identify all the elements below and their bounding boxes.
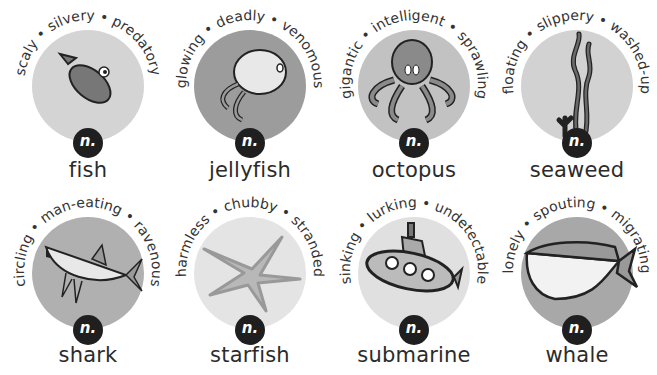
card-octopus: gigantic • intelligent • sprawling n. oc…	[332, 0, 496, 188]
card-shark: circling • man-eating • ravenous n. shar…	[6, 187, 170, 375]
noun-label: shark	[6, 343, 170, 367]
noun-badge: n.	[73, 315, 103, 345]
card-fish: scaly • silvery • predatory n. fish	[6, 0, 170, 188]
noun-badge: n.	[235, 315, 265, 345]
noun-badge: n.	[399, 128, 429, 158]
noun-label: starfish	[168, 343, 332, 367]
card-whale: lonely • spouting • migrating n. whale	[495, 187, 657, 375]
noun-badge: n.	[73, 128, 103, 158]
card-submarine: sinking • lurking • undetectable n. subm…	[332, 187, 496, 375]
card-starfish: harmless • chubby • stranded n. starfish	[168, 187, 332, 375]
noun-label: seaweed	[495, 158, 657, 182]
noun-label: fish	[6, 158, 170, 182]
card-jellyfish: glowing • deadly • venomous n. jellyfish	[168, 0, 332, 188]
noun-label: octopus	[332, 158, 496, 182]
noun-label: submarine	[332, 343, 496, 367]
noun-label: jellyfish	[168, 158, 332, 182]
noun-label: whale	[495, 343, 657, 367]
noun-badge: n.	[562, 315, 592, 345]
noun-badge: n.	[235, 128, 265, 158]
noun-badge: n.	[399, 315, 429, 345]
card-seaweed: floating • slippery • washed-up n. seawe…	[495, 0, 657, 188]
noun-badge: n.	[562, 128, 592, 158]
